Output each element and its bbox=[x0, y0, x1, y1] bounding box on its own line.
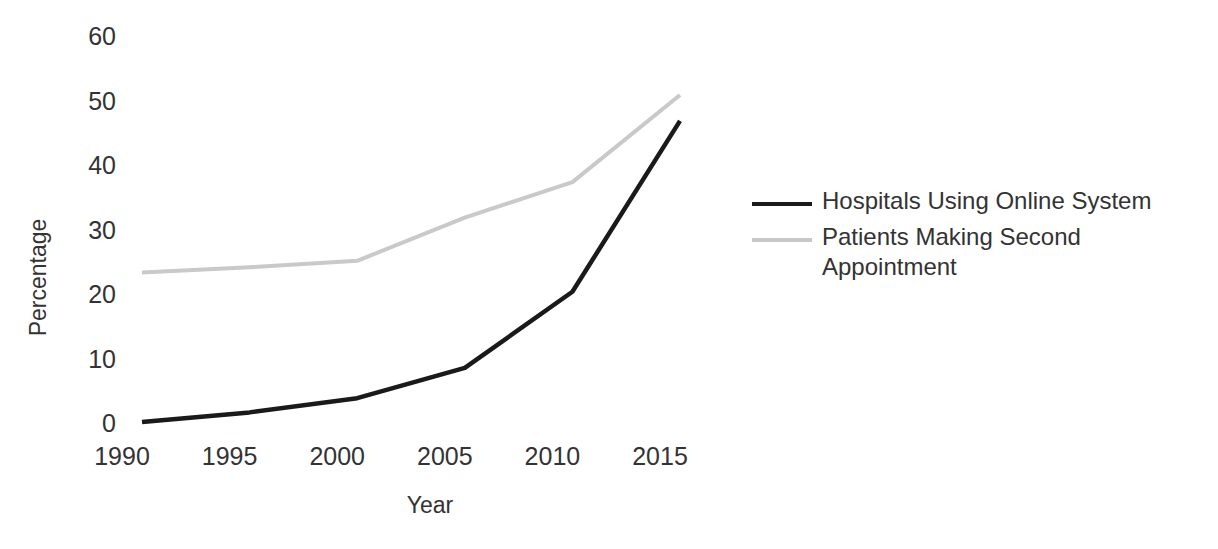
x-tick-label: 1995 bbox=[185, 444, 275, 469]
x-tick-label: 2005 bbox=[400, 444, 490, 469]
y-tick-label: 30 bbox=[52, 218, 116, 243]
y-tick-label: 50 bbox=[52, 89, 116, 114]
chart-legend: Hospitals Using Online SystemPatients Ma… bbox=[750, 186, 1210, 288]
x-tick-label: 2000 bbox=[292, 444, 382, 469]
legend-entry-0: Hospitals Using Online System bbox=[750, 186, 1210, 216]
legend-swatch-0 bbox=[752, 202, 812, 206]
x-tick-label: 2015 bbox=[615, 444, 705, 469]
legend-label-1: Patients Making Second Appointment bbox=[822, 222, 1152, 282]
y-tick-label: 60 bbox=[52, 24, 116, 49]
x-tick-label: 1990 bbox=[77, 444, 167, 469]
x-tick-label: 2010 bbox=[507, 444, 597, 469]
y-tick-label: 40 bbox=[52, 153, 116, 178]
x-axis-title: Year bbox=[330, 492, 530, 519]
y-tick-label: 20 bbox=[52, 282, 116, 307]
y-tick-label: 0 bbox=[52, 411, 116, 436]
chart-figure: 0102030405060 199019952000200520102015 P… bbox=[0, 0, 1218, 549]
legend-entry-1: Patients Making Second Appointment bbox=[750, 222, 1210, 282]
y-axis-title: Percentage bbox=[25, 178, 52, 378]
legend-swatch-1 bbox=[752, 238, 812, 242]
y-tick-label: 10 bbox=[52, 347, 116, 372]
legend-label-0: Hospitals Using Online System bbox=[822, 186, 1152, 216]
series-line-0 bbox=[142, 121, 680, 422]
